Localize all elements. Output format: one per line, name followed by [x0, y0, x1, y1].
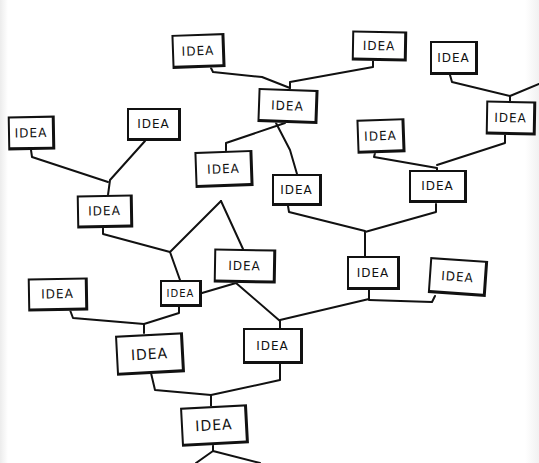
idea-box: IDEA: [77, 195, 134, 229]
idea-label: IDEA: [181, 43, 214, 59]
connector-n3-n5: [450, 75, 510, 101]
connector-n10-n14: [288, 206, 365, 231]
idea-box: IDEA: [347, 256, 400, 290]
idea-box: IDEA: [8, 116, 56, 151]
connector-n15-n19: [369, 296, 435, 302]
idea-label: IDEA: [167, 287, 195, 299]
idea-box: IDEA: [486, 101, 537, 136]
connector-n4-n8: [226, 123, 285, 152]
idea-box: IDEA: [180, 404, 249, 446]
idea-label: IDEA: [137, 117, 170, 132]
idea-label: IDEA: [364, 128, 397, 144]
idea-label: IDEA: [228, 258, 261, 273]
connector-n2-n4: [290, 61, 373, 88]
idea-label: IDEA: [280, 182, 313, 197]
idea-label: IDEA: [41, 286, 74, 301]
idea-box: IDEA: [257, 88, 318, 124]
idea-box: IDEA: [352, 31, 408, 62]
idea-label: IDEA: [88, 203, 121, 218]
idea-label: IDEA: [357, 265, 390, 280]
connector-n8-n13: [221, 201, 243, 249]
connector-n5-n5-right: [510, 84, 539, 96]
connector-n14-n19: [280, 290, 369, 328]
connector-n4-n10: [276, 123, 297, 174]
connector-n19-n20: [211, 364, 280, 395]
idea-box: IDEA: [194, 150, 253, 188]
connector-n12-n17: [103, 228, 170, 252]
idea-box: IDEA: [160, 280, 202, 307]
idea-box: IDEA: [115, 332, 185, 376]
connector-n11-n14: [365, 204, 436, 256]
connector-n20-below: [196, 445, 260, 463]
idea-label: IDEA: [195, 416, 233, 435]
connector-n7-n12: [108, 141, 145, 195]
connector-n13-n17: [202, 283, 236, 293]
idea-box: IDEA: [430, 41, 478, 75]
idea-label: IDEA: [256, 338, 289, 353]
idea-label: IDEA: [437, 50, 470, 65]
idea-label: IDEA: [421, 179, 454, 194]
idea-box: IDEA: [127, 108, 181, 141]
connector-n17-n18: [144, 307, 179, 324]
idea-box: IDEA: [171, 33, 225, 69]
connector-n5-n11: [437, 135, 505, 165]
idea-label: IDEA: [441, 268, 475, 285]
idea-label: IDEA: [271, 98, 304, 114]
idea-label: IDEA: [363, 38, 396, 53]
idea-box: IDEA: [409, 170, 467, 203]
connector-n6-n12: [31, 150, 108, 182]
idea-label: IDEA: [15, 125, 48, 140]
idea-box: IDEA: [243, 328, 303, 364]
idea-box: IDEA: [356, 118, 405, 154]
idea-label: IDEA: [207, 161, 240, 177]
idea-box: IDEA: [214, 248, 277, 283]
idea-box: IDEA: [428, 257, 488, 297]
connector-n16-n18: [70, 310, 144, 333]
connector-n18-n20: [151, 373, 211, 406]
connector-n9-n11: [374, 153, 437, 170]
idea-label: IDEA: [130, 344, 168, 363]
connector-n1-n4: [211, 68, 290, 88]
idea-box: IDEA: [272, 174, 322, 206]
idea-label: IDEA: [494, 110, 527, 125]
idea-box: IDEA: [28, 277, 89, 311]
connector-n13-n19: [236, 283, 280, 321]
